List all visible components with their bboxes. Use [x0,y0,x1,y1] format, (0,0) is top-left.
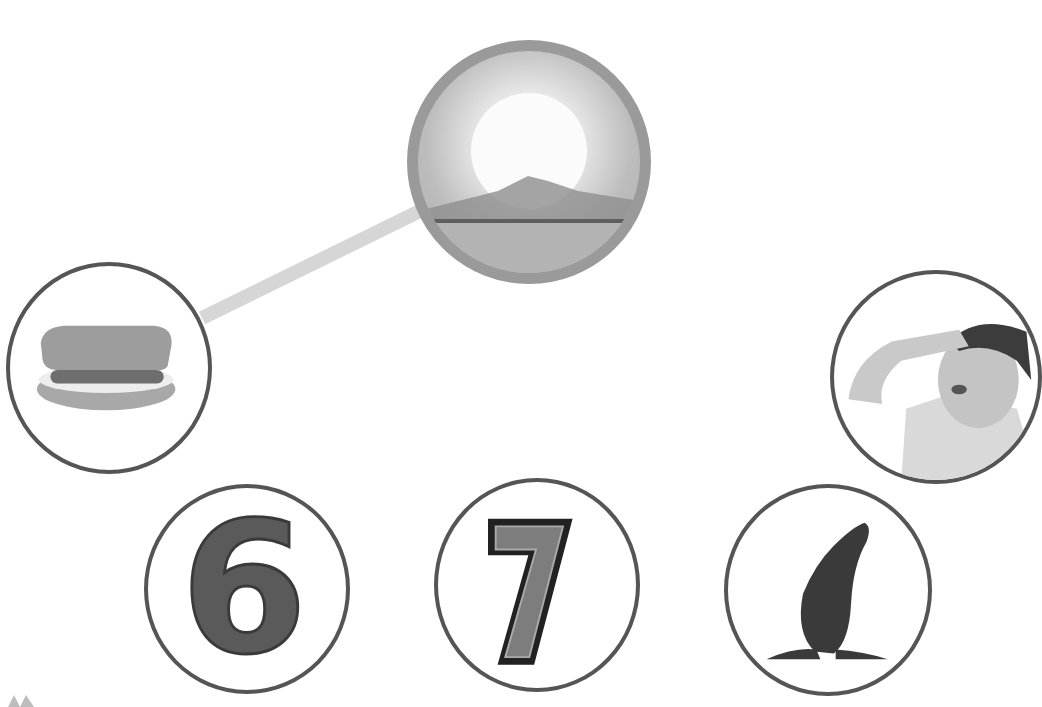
corner-decoration-icon [6,693,36,707]
number-seven-icon [438,482,636,688]
seven-picture-circle[interactable]: 7 [434,478,640,692]
sunset-icon [418,51,640,273]
seal-icon [728,488,928,692]
sandwich-picture-circle[interactable]: Sandwich [6,262,212,474]
number-six-icon: 6 [148,488,346,690]
sandwich-icon [10,266,208,470]
sun-picture-circle[interactable]: Sun setting over sea [407,40,651,284]
boy-icon [834,274,1038,480]
boy-picture-circle[interactable]: Boy looking / shading eyes [830,270,1042,484]
seal-picture-circle[interactable]: Seal [724,484,932,696]
svg-text:6: 6 [181,488,308,690]
six-picture-circle[interactable]: 6 6 [144,484,350,694]
